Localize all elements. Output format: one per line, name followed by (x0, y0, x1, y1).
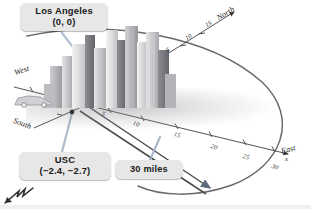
callout-los-angeles-coords: (0, 0) (22, 17, 106, 28)
south-axis-line (34, 105, 86, 128)
callout-radius-label: 30 miles (130, 164, 168, 174)
leader-usc (62, 113, 72, 152)
figure-canvas: 5 10 15 20 25 30 5 10 15 East x North We… (0, 0, 311, 209)
corner-arrow-mark (3, 186, 37, 206)
car-illustration (12, 92, 56, 108)
city-skyline (44, 22, 176, 108)
callout-los-angeles-title: Los Angeles (35, 5, 93, 16)
usc-marker-dot (70, 110, 75, 115)
south-axis-ticks (57, 114, 62, 115)
callout-usc-coords: (−2.4, −2.7) (21, 166, 109, 177)
callout-radius: 30 miles (115, 160, 183, 179)
callout-usc-title: USC (55, 154, 75, 165)
callout-los-angeles: Los Angeles (0, 0) (20, 3, 108, 31)
bottom-rule (0, 205, 311, 209)
east-axis-line (86, 105, 288, 154)
callout-usc: USC (−2.4, −2.7) (19, 152, 111, 180)
